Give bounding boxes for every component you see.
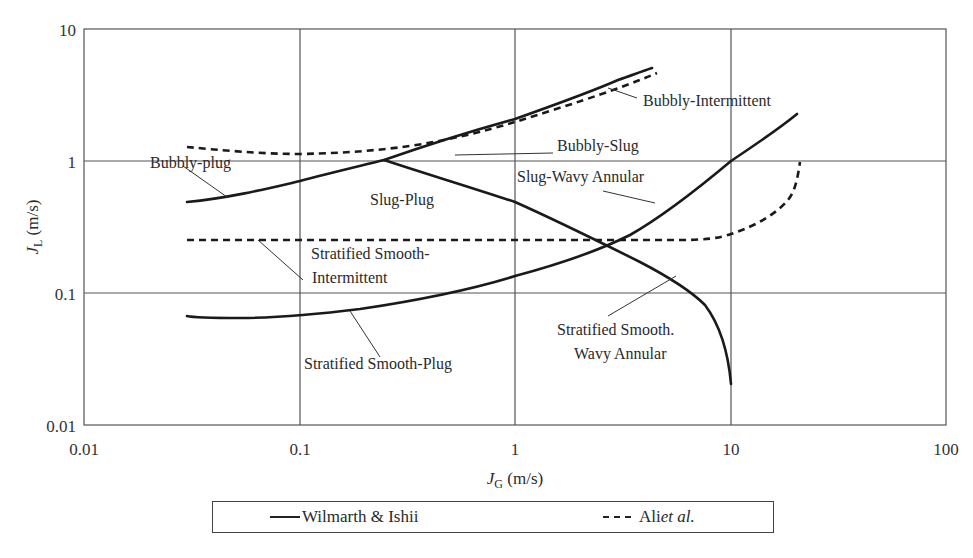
y-tick-labels: 10 1 0.1 0.01	[46, 21, 76, 436]
x-axis-title: JG (m/s)	[487, 469, 543, 491]
x-tick-100: 100	[933, 440, 959, 459]
legend-item-wilmarth-ishii: Wilmarth & Ishii	[270, 507, 418, 527]
legend-label-ali: Ali	[639, 507, 661, 527]
flow-regime-chart: 10 1 0.1 0.01 0.01 0.1 1 10 100 JG (m/s)…	[0, 0, 973, 500]
label-strat-smooth-intermittent-1: Stratified Smooth-	[311, 245, 430, 262]
legend-label-et-al: et al.	[661, 507, 695, 527]
y-axis-title: JL (m/s)	[23, 199, 45, 254]
x-tick-labels: 0.01 0.1 1 10 100	[69, 440, 959, 459]
label-strat-wavy-annular-2: Wavy Annular	[574, 345, 667, 363]
solid-line-swatch-icon	[270, 516, 300, 518]
grid	[84, 29, 946, 425]
label-strat-smooth-intermittent-2: Intermittent	[312, 269, 388, 286]
legend: Wilmarth & Ishii Ali et al.	[212, 501, 774, 533]
x-tick-0.1: 0.1	[289, 440, 310, 459]
label-slug-wavy-annular: Slug-Wavy Annular	[517, 168, 645, 186]
leader-strat-wavy-annular	[608, 276, 676, 316]
label-slug-plug: Slug-Plug	[370, 191, 434, 209]
x-tick-10: 10	[723, 440, 740, 459]
leader-strat-smooth-plug	[350, 311, 380, 357]
curve-strat-plug-slug-wavy	[187, 114, 797, 318]
label-bubbly-slug: Bubbly-Slug	[557, 137, 639, 155]
label-bubbly-plug: Bubbly-plug	[150, 154, 231, 172]
x-tick-1: 1	[511, 440, 520, 459]
leader-slug-wavy-annular	[603, 191, 655, 203]
series-wilmarth-ishii	[187, 68, 797, 384]
leader-bubbly-intermittent	[608, 88, 637, 98]
leader-strat-smooth-intermittent	[258, 240, 303, 280]
y-tick-0.01: 0.01	[46, 417, 76, 436]
leader-bubbly-slug	[455, 153, 553, 155]
legend-label-wilmarth-ishii: Wilmarth & Ishii	[302, 507, 418, 527]
label-bubbly-intermittent: Bubbly-Intermittent	[643, 92, 772, 110]
y-tick-10: 10	[59, 21, 76, 40]
dashed-line-swatch-icon	[603, 516, 631, 518]
x-tick-0.01: 0.01	[69, 440, 99, 459]
y-tick-0.1: 0.1	[55, 285, 76, 304]
legend-item-ali-et-al: Ali et al.	[603, 507, 695, 527]
label-strat-wavy-annular-1: Stratified Smooth.	[557, 321, 674, 338]
label-strat-smooth-plug: Stratified Smooth-Plug	[304, 355, 452, 373]
curve-slug-plug-strat-wavy	[384, 160, 731, 384]
curve-strat-smooth-intermittent	[187, 162, 800, 240]
y-tick-1: 1	[68, 153, 77, 172]
